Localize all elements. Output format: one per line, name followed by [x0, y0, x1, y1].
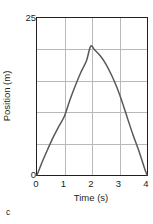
series-line-position — [37, 46, 147, 175]
x-axis-tick-label-3: 3 — [111, 179, 127, 189]
y-axis-title: Position (m) — [2, 70, 12, 121]
plot-area — [36, 17, 148, 176]
x-axis-tick-label-2: 2 — [83, 179, 99, 189]
data-curve-svg — [37, 18, 147, 175]
position-vs-time-chart: 25 0 Position (m) 0 1 2 3 4 Time (s) c — [0, 0, 153, 224]
x-axis-tick-label-1: 1 — [56, 179, 72, 189]
panel-letter: c — [6, 208, 10, 217]
y-axis-title-container: Position (m) — [0, 17, 14, 174]
x-axis-title: Time (s) — [36, 193, 146, 203]
x-axis-tick-label-4: 4 — [138, 179, 153, 189]
x-axis-tick-label-0: 0 — [28, 179, 44, 189]
